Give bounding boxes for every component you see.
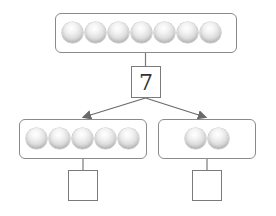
part-right-balls xyxy=(185,128,229,149)
ball-icon xyxy=(131,22,152,43)
ball-icon xyxy=(49,128,70,149)
ball-icon xyxy=(177,22,198,43)
ball-icon xyxy=(200,22,221,43)
whole-number-box: 7 xyxy=(131,66,161,98)
part-left-answer-box[interactable] xyxy=(68,170,98,201)
ball-icon xyxy=(26,128,47,149)
whole-balls xyxy=(62,22,221,43)
whole-group-box xyxy=(55,13,237,53)
ball-icon xyxy=(208,128,229,149)
ball-icon xyxy=(108,22,129,43)
ball-icon xyxy=(62,22,83,43)
whole-number: 7 xyxy=(139,70,153,95)
ball-icon xyxy=(85,22,106,43)
part-left-balls xyxy=(26,128,139,149)
ball-icon xyxy=(72,128,93,149)
part-left-group-box xyxy=(19,119,147,159)
ball-icon xyxy=(95,128,116,149)
part-right-answer-box[interactable] xyxy=(192,170,222,201)
ball-icon xyxy=(185,128,206,149)
ball-icon xyxy=(154,22,175,43)
part-right-group-box xyxy=(158,119,256,159)
ball-icon xyxy=(118,128,139,149)
